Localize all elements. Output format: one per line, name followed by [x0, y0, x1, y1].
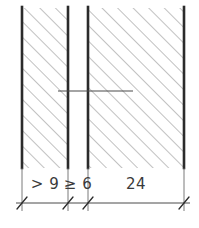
dimension-label-right-wall: 24: [126, 175, 146, 193]
technical-drawing-canvas: > 9 ≥ 6 24: [0, 0, 199, 228]
right-wall-hatching: [88, 8, 184, 168]
cross-section-drawing: > 9 ≥ 6 24: [0, 0, 199, 228]
left-wall-hatching: [22, 8, 68, 168]
dimension-label-left-wall: > 9: [31, 175, 59, 193]
dimension-label-gap: ≥ 6: [64, 175, 92, 193]
